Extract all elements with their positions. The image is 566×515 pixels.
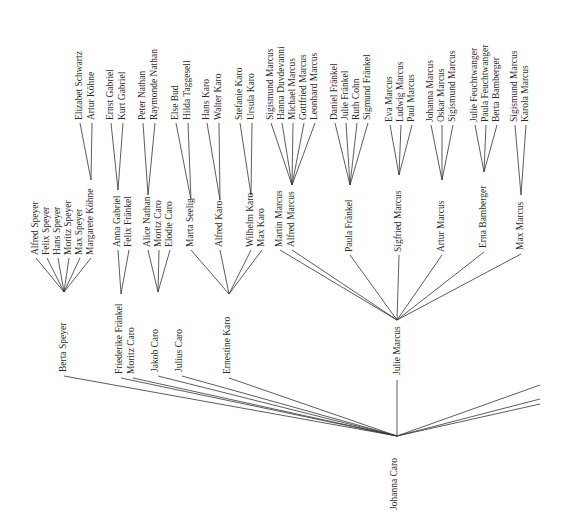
edge-alfred_m-michael (292, 123, 293, 185)
person-julius: Julius Caro (174, 329, 184, 372)
person-ursula: Ursula Karo (246, 73, 256, 120)
edge-berta-hans_s (58, 258, 64, 292)
edge-artur-sigismund_m2 (442, 125, 453, 180)
edge-jakob-moritz_c (158, 250, 159, 292)
person-friederike: Friederike Fränkel (114, 303, 124, 374)
person-elodie: Elodie Caro (164, 201, 174, 247)
edge-erna-julie_fe (475, 125, 484, 172)
person-max_m: Max Marcus (515, 201, 525, 250)
edge-max_m-sigismund_m3 (515, 125, 521, 195)
person-sigmund_f: Sigmund Fränkel (362, 54, 372, 120)
person-sigfried: Sigfried Marcus (393, 190, 403, 252)
edge-jakob-elodie (158, 250, 170, 292)
person-hilda: Hilda Taggesell (182, 60, 192, 120)
edge-jakob-alice (148, 250, 158, 292)
person-berta: Berta Speyer (58, 322, 68, 372)
person-julie_fe: Julie Feuchtwanger (469, 47, 479, 122)
edge-sigfried-eva (390, 125, 399, 175)
edge-max_m-karola (521, 125, 526, 195)
person-margarete: Margarete Köhne (85, 188, 95, 255)
person-johanna: Johanna Caro (389, 458, 399, 510)
person-alfred_k: Alfred Karo (214, 201, 224, 247)
edge-anna-ernst (111, 123, 118, 190)
edge-anna-kurt (118, 123, 123, 190)
person-erna: Erna Bamberger (478, 185, 488, 248)
person-raymonde: Raymonde Nathan (149, 49, 159, 120)
offpage-edge-1 (397, 399, 540, 436)
edge-johanna-julius (182, 376, 397, 436)
edge-friederike-felix_f (121, 250, 129, 294)
edge-alice-peter (143, 123, 148, 195)
person-artur: Artur Marcus (436, 200, 446, 252)
edge-ernestine-marta (191, 250, 229, 294)
edge-julie-paula (350, 255, 397, 320)
edge-ernestine-max_k (229, 250, 262, 294)
person-julie: Julie Marcus (392, 326, 402, 375)
edge-berta-alfred_s (36, 258, 64, 292)
person-karola: Karola Marcus (520, 65, 530, 122)
person-felix_s: Felix Speyer (41, 206, 51, 255)
edge-paula-sigmund_f (350, 123, 368, 185)
person-else: Else Bud (170, 85, 180, 120)
person-ernst: Ernst Gabriel (105, 69, 115, 120)
person-paul: Paul Marcus (406, 74, 416, 122)
edge-julie-artur (397, 255, 442, 320)
edge-margarete-artur_k (91, 123, 92, 180)
tree-edges (36, 123, 540, 436)
offpage-edge-0 (397, 385, 540, 436)
person-artur_k: Artur Köhne (86, 72, 96, 120)
edge-alfred_k-hans_k (207, 123, 220, 200)
edge-wilhelm-stefanie (240, 123, 251, 195)
edge-julie-max_m (397, 254, 521, 320)
person-paula: Paula Fränkel (344, 199, 354, 252)
person-moritz_s: Moritz Speyer (63, 200, 73, 255)
person-alice: Alice Nathan (142, 196, 152, 247)
person-moritz: Moritz Caro (126, 327, 136, 374)
person-anna: Anna Gabriel (112, 195, 122, 247)
edge-johanna-ernestine (229, 378, 397, 436)
edge-paula-ruth (350, 123, 357, 185)
person-ruth: Ruth Cohn (351, 78, 361, 120)
edge-alice-raymonde (148, 123, 155, 195)
person-moritz_c: Moritz Caro (153, 200, 163, 247)
tree-labels: Johanna CaroBerta SpeyerFriederike Fränk… (30, 44, 530, 510)
person-wilhelm: Wilhelm Karo (245, 193, 255, 247)
person-daniel: Daniel Fränkel (329, 63, 339, 120)
person-sigismund_m2: Sigismund Marcus (447, 50, 457, 122)
edge-wilhelm-ursula (251, 123, 252, 195)
person-eva: Eva Marcus (384, 76, 394, 122)
person-hans_k: Hans Karo (201, 79, 211, 120)
edge-alfred_m-hanna (282, 123, 292, 185)
edge-johanna-jakob (158, 376, 397, 436)
edge-ernestine-wilhelm (229, 250, 251, 294)
person-martin: Martin Marcus (274, 190, 284, 247)
person-stefanie: Stefanie Karo (234, 67, 244, 120)
person-berta_b: Berta Bamberger (491, 56, 501, 122)
person-oskar: Oskar Marcus (436, 68, 446, 122)
edge-artur-johanna_m (431, 125, 442, 180)
person-julie_f: Julie Fränkel (340, 70, 350, 120)
edge-julie-sigfried (397, 255, 399, 320)
person-walter: Walter Karo (213, 73, 223, 120)
person-max_k: Max Karo (256, 208, 266, 247)
edge-alfred_k-walter (219, 123, 220, 200)
person-kurt: Kurt Gabriel (117, 71, 127, 120)
edge-alfred_m-gottfried (292, 123, 304, 185)
person-felix_f: Felix Fränkel (123, 196, 133, 247)
edge-johanna-berta (64, 376, 397, 436)
person-michael: Michael Marcus (287, 58, 297, 120)
person-jakob: Jakob Caro (150, 329, 160, 372)
edge-margarete-elizabet (80, 123, 91, 180)
person-elizabet: Elizabet Schwartz (74, 51, 84, 120)
edge-ernestine-alfred_k (220, 250, 229, 294)
person-peter: Peter Nathan (137, 70, 147, 120)
person-max_s: Max Speyer (74, 208, 84, 255)
person-sigmund_m1: Sigismund Marcus (265, 48, 275, 120)
person-ernestine: Ernestine Karo (222, 317, 232, 374)
person-hanna: Hanna Duvdevanni (276, 46, 286, 120)
person-alfred_s: Alfred Speyer (30, 201, 40, 255)
person-marta: Marta Seelig (185, 198, 195, 247)
person-hans_s: Hans Speyer (52, 206, 62, 255)
offpage-edge-2 (397, 404, 540, 436)
person-alfred_m: Alfred Marcus (286, 191, 296, 247)
